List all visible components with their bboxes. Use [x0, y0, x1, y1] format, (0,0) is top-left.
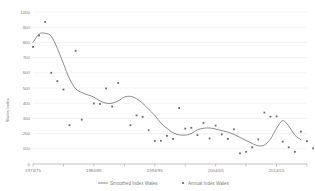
annual-index-marker	[75, 50, 77, 52]
x-tick-label: 1994/95	[147, 168, 163, 173]
annual-index-marker	[312, 147, 314, 149]
y-tick-label: 200	[23, 131, 31, 136]
annual-index-marker	[166, 135, 168, 137]
y-tick-label: 100	[23, 146, 31, 151]
annual-index-marker	[270, 116, 272, 118]
annual-index-marker	[215, 125, 217, 127]
x-axis-line-and-ticks	[33, 164, 307, 167]
annual-index-marker	[93, 103, 95, 105]
annual-index-marker	[178, 107, 180, 109]
annual-index-marker	[276, 116, 278, 118]
x-tick-label: 2014/15	[269, 168, 285, 173]
annual-index-marker	[154, 140, 156, 142]
y-tick-label: 900	[23, 25, 31, 30]
y-tick-label: 500	[23, 86, 31, 91]
annual-index-marker	[111, 106, 113, 108]
y-axis-title-text: Wales Index	[5, 97, 10, 122]
annual-index-marker	[117, 82, 119, 84]
annual-index-marker	[142, 116, 144, 118]
annual-index-marker	[130, 124, 132, 126]
annual-index-marker	[190, 127, 192, 129]
wales-index-line-chart: 10009008007006005004003002001000 1974/75…	[0, 0, 315, 191]
legend-label-annual: Annual Index Wales	[188, 181, 229, 186]
y-tick-label: 700	[23, 55, 31, 60]
annual-index-marker	[282, 141, 284, 143]
annual-index-marker	[251, 146, 253, 148]
y-tick-label: 600	[23, 70, 31, 75]
annual-index-marker	[99, 103, 101, 105]
annual-index-marker	[63, 89, 65, 91]
annual-index-marker	[56, 80, 58, 82]
y-tick-label: 0	[28, 162, 31, 167]
y-axis-title: Wales Index	[5, 97, 10, 122]
chart-legend: Smoothed Index WalesAnnual Index Wales	[98, 181, 229, 186]
y-tick-label: 400	[23, 101, 31, 106]
annual-index-marker	[105, 88, 107, 90]
legend-label-smoothed: Smoothed Index Wales	[110, 181, 158, 186]
chart-page: 10009008007006005004003002001000 1974/75…	[0, 0, 315, 191]
y-tick-label: 300	[23, 116, 31, 121]
annual-index-marker	[69, 124, 71, 126]
y-axis-tick-labels: 10009008007006005004003002001000	[20, 10, 30, 167]
annual-index-marker	[294, 151, 296, 153]
x-tick-label: 1974/75	[25, 168, 41, 173]
annual-index-marker	[221, 133, 223, 135]
y-tick-label: 800	[23, 40, 31, 45]
smoothed-index-path	[33, 33, 301, 146]
annual-index-marker	[257, 138, 259, 140]
annual-index-marker	[148, 129, 150, 131]
annual-index-marker	[209, 138, 211, 140]
annual-index-marker	[172, 138, 174, 140]
annual-index-marker	[44, 21, 46, 23]
y-tick-label: 1000	[20, 10, 30, 15]
x-tick-label: 1984/85	[86, 168, 102, 173]
annual-index-marker	[197, 134, 199, 136]
annual-index-marker	[32, 46, 34, 48]
annual-index-marker	[160, 140, 162, 142]
annual-index-marker	[263, 112, 265, 114]
annual-index-marker	[136, 114, 138, 116]
annual-index-marker	[38, 35, 40, 37]
annual-index-marker	[184, 128, 186, 130]
annual-index-marker	[227, 138, 229, 140]
smoothed-index-line	[33, 33, 301, 146]
annual-index-marker	[288, 146, 290, 148]
annual-index-marker	[300, 131, 302, 133]
annual-index-marker	[81, 119, 83, 121]
annual-index-marker	[50, 72, 52, 74]
x-axis-tick-labels: 1974/751984/851994/952004/052014/15	[25, 168, 285, 173]
annual-index-marker	[245, 151, 247, 153]
annual-index-marker	[203, 122, 205, 124]
annual-index-marker	[233, 128, 235, 130]
gridlines	[33, 12, 307, 149]
legend-marker-swatch	[182, 182, 184, 184]
annual-index-marker	[239, 152, 241, 154]
annual-index-marker	[306, 140, 308, 142]
x-tick-label: 2004/05	[208, 168, 224, 173]
